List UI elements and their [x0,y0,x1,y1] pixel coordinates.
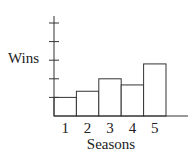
x-tick-label: 5 [151,120,159,136]
x-tick-label: 1 [61,120,69,136]
bars [54,64,166,116]
bar-chart: 12345 Wins Seasons [0,0,196,156]
y-axis-label: Wins [8,50,39,66]
bar-season-5 [144,64,166,116]
x-axis-label: Seasons [87,136,135,152]
bar-season-3 [99,79,121,116]
x-tick-label: 3 [106,120,114,136]
x-tick-label: 2 [84,120,92,136]
bar-season-4 [121,85,143,116]
x-tick-labels: 12345 [61,120,158,136]
x-tick-label: 4 [129,120,137,136]
bar-season-1 [54,97,76,116]
bar-season-2 [76,91,98,116]
